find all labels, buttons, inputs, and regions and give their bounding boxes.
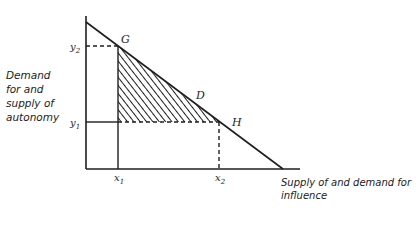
tick-label-x2: x2 — [215, 172, 226, 186]
x-axis-title-line: Supply of and demand for — [281, 176, 416, 189]
y-axis-title-line: autonomy — [6, 110, 78, 124]
x-axis-title-line: influence — [281, 189, 416, 202]
tick-label-x1: x1 — [114, 172, 124, 186]
x-axis-title: Supply of and demand for influence — [281, 176, 416, 202]
point-label-g: G — [121, 33, 130, 46]
tick-label-y2: y2 — [69, 41, 81, 55]
point-label-h: H — [231, 116, 242, 129]
y-axis-title-line: supply of — [6, 96, 78, 110]
y-axis-title-line: Demand — [6, 68, 78, 82]
y-axis-title-line: for and — [6, 82, 78, 96]
y-axis-title: Demand for and supply of autonomy — [6, 68, 78, 124]
tradeoff-line — [86, 22, 283, 169]
point-label-d: D — [195, 89, 205, 102]
